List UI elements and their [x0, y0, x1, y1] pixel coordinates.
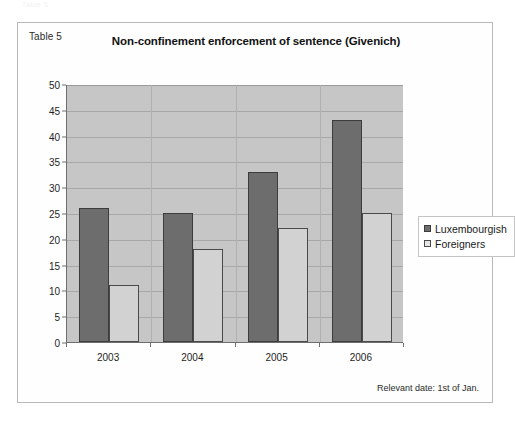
y-axis-tick-label: 40 — [49, 131, 60, 142]
y-axis-tick-mark — [62, 291, 66, 292]
y-axis-tick-label: 50 — [49, 80, 60, 91]
y-axis-tick-mark — [62, 188, 66, 189]
y-axis-tick-mark — [62, 110, 66, 111]
y-axis-tick-mark — [62, 214, 66, 215]
bar-foreigners-2006 — [362, 213, 392, 342]
category-separator — [320, 85, 321, 342]
y-axis-tick-mark — [62, 85, 66, 86]
y-axis-tick-label: 45 — [49, 105, 60, 116]
y-axis-tick-mark — [62, 317, 66, 318]
plot-wrapper: 05101520253035404550 2003200420052006 — [66, 85, 403, 343]
bar-luxembourgish-2004 — [163, 213, 193, 342]
x-axis-tick-mark — [150, 343, 151, 347]
x-axis-tick-label: 2005 — [266, 352, 288, 363]
legend-item-luxembourgish[interactable]: Luxembourgish — [424, 221, 507, 236]
bar-foreigners-2005 — [278, 228, 308, 342]
y-axis-tick-label: 0 — [54, 338, 60, 349]
y-axis-tick-mark — [62, 239, 66, 240]
y-axis-tick-mark — [62, 265, 66, 266]
y-axis-tick-label: 5 — [54, 312, 60, 323]
legend-item-foreigners[interactable]: Foreigners — [424, 236, 507, 251]
bar-foreigners-2003 — [109, 285, 139, 342]
y-axis-tick-label: 15 — [49, 260, 60, 271]
y-axis-tick-label: 30 — [49, 183, 60, 194]
x-axis-tick-mark — [235, 343, 236, 347]
x-axis-tick-label: 2006 — [350, 352, 372, 363]
y-axis-tick-mark — [62, 162, 66, 163]
chart-footnote: Relevant date: 1st of Jan. — [377, 383, 479, 393]
legend-label: Luxembourgish — [435, 223, 507, 235]
category-separator — [236, 85, 237, 342]
chart-title: Non-confinement enforcement of sentence … — [18, 35, 494, 47]
bar-luxembourgish-2005 — [248, 172, 278, 342]
bar-foreigners-2004 — [193, 249, 223, 342]
x-axis-tick-label: 2004 — [181, 352, 203, 363]
bar-luxembourgish-2003 — [79, 208, 109, 342]
figure-card: Table 5 Non-confinement enforcement of s… — [17, 22, 493, 403]
legend-label: Foreigners — [435, 238, 485, 250]
x-axis-tick-mark — [66, 343, 67, 347]
chart-legend: LuxembourgishForeigners — [418, 216, 515, 257]
y-axis-tick-label: 25 — [49, 209, 60, 220]
x-axis-tick-mark — [319, 343, 320, 347]
y-axis-tick-label: 35 — [49, 157, 60, 168]
legend-swatch-icon — [424, 240, 431, 247]
y-axis-tick-label: 10 — [49, 286, 60, 297]
bar-luxembourgish-2006 — [332, 120, 362, 342]
legend-swatch-icon — [424, 225, 431, 232]
y-axis-tick-mark — [62, 136, 66, 137]
plot-area — [66, 85, 403, 343]
category-separator — [151, 85, 152, 342]
scan-artifact-text: Table 5 — [22, 1, 92, 9]
x-axis-tick-label: 2003 — [97, 352, 119, 363]
y-axis-tick-label: 20 — [49, 234, 60, 245]
x-axis-tick-mark — [403, 343, 404, 347]
